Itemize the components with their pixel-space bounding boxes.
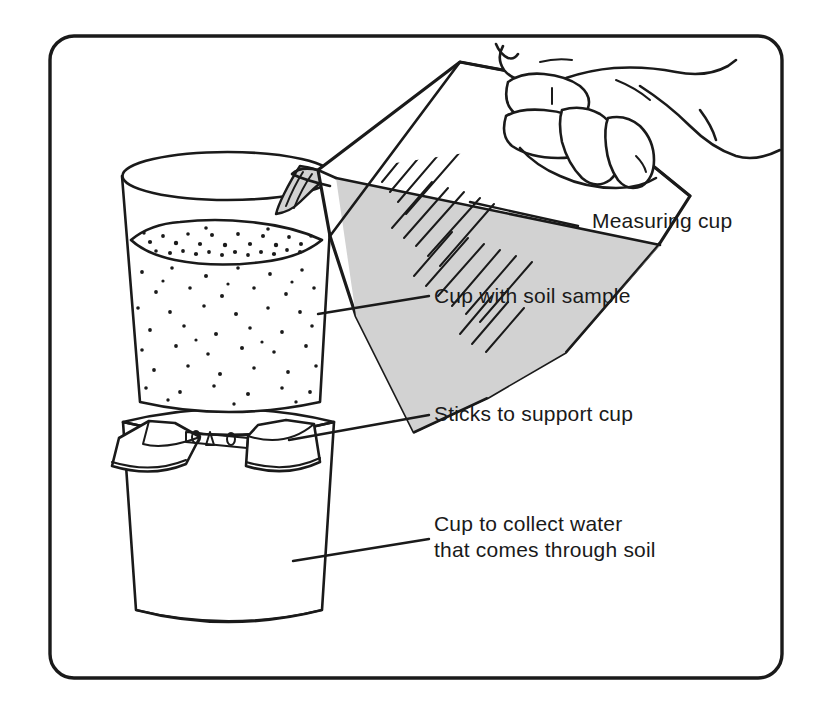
- callout-label-measuring-cup: Measuring cup: [592, 209, 732, 232]
- soil-percolation-diagram: Measuring cup Cup with soil sample Stick…: [0, 0, 828, 719]
- callout-label-cup-to-collect-water-line1: Cup to collect water: [434, 512, 622, 535]
- measuring-cup: [292, 62, 690, 432]
- callout-cup-to-collect-water: Cup to collect water that comes through …: [293, 512, 656, 561]
- figure-root: Measuring cup Cup with soil sample Stick…: [0, 0, 828, 719]
- callout-label-cup-to-collect-water-line2: that comes through soil: [434, 538, 656, 561]
- callout-sticks-to-support-cup: Sticks to support cup: [289, 402, 633, 440]
- hand-wrist-lower: [640, 86, 780, 158]
- callout-label-sticks-to-support-cup: Sticks to support cup: [434, 402, 633, 425]
- soil-cup-body: [122, 176, 333, 412]
- callout-label-cup-with-soil-sample: Cup with soil sample: [434, 284, 631, 307]
